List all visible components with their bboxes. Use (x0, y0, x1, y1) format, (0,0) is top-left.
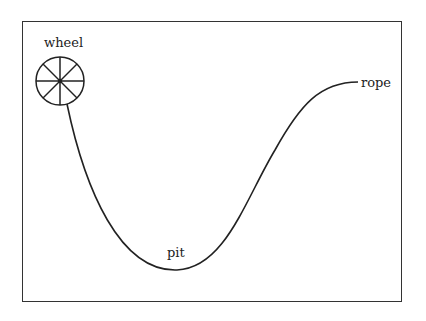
wheel-label: wheel (44, 36, 83, 49)
rope-label: rope (361, 76, 391, 89)
pit-label: pit (167, 246, 185, 259)
wheel-icon (36, 57, 84, 105)
rope-curve (67, 82, 358, 270)
